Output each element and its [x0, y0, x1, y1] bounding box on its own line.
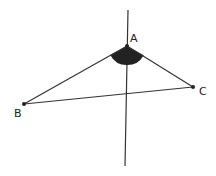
label-a: A	[130, 32, 138, 45]
label-b: B	[14, 107, 22, 120]
angle-a-sector	[110, 46, 144, 65]
point-a	[125, 44, 129, 48]
point-b	[22, 102, 26, 106]
vertical-line	[125, 10, 128, 166]
label-c: C	[199, 85, 207, 98]
geometry-diagram: A B C	[0, 0, 216, 176]
segment-ac	[127, 46, 193, 87]
point-c	[191, 85, 195, 89]
